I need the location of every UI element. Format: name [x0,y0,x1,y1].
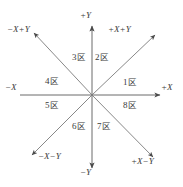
diagonal-label-lower-left: −X−Y [38,152,61,161]
region-1-unit: 区 [128,77,137,87]
region-label-1: 1区 [123,78,137,87]
region-label-8: 8区 [123,101,137,110]
region-3-unit: 区 [77,52,86,62]
axis-label-positive-x: +X [161,83,173,92]
diagonal-label-lower-right: +X−Y [131,157,154,166]
region-4-unit: 区 [50,76,59,86]
axis-label-negative-x: −X [5,83,17,92]
coordinate-diagram: +Y −Y −X +X +X+Y −X+Y −X−Y +X−Y 1区 2区 3区… [0,0,183,187]
diagonal-label-upper-left: −X+Y [7,25,30,34]
region-6-unit: 区 [77,121,86,131]
region-2-unit: 区 [100,52,109,62]
region-8-unit: 区 [128,100,137,110]
axis-label-negative-y: −Y [80,168,91,177]
region-label-4: 4区 [45,77,59,86]
region-label-5: 5区 [45,101,59,110]
diagonal-upper-left [34,33,92,95]
diagonal-label-upper-right: +X+Y [108,25,131,34]
region-label-3: 3区 [72,53,86,62]
region-label-2: 2区 [95,53,109,62]
region-5-unit: 区 [50,100,59,110]
region-7-unit: 区 [102,121,111,131]
axis-label-positive-y: +Y [80,11,91,20]
region-label-6: 6区 [72,122,86,131]
region-label-7: 7区 [97,122,111,131]
